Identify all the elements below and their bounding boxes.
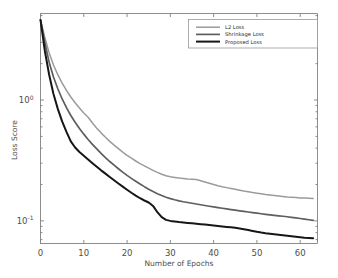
x-tick-label: 40: [208, 248, 219, 258]
chart-figure: 0102030405060 10010-1 Number of Epochs L…: [0, 0, 338, 278]
x-axis-title: Number of Epochs: [145, 259, 214, 268]
loss-curve-chart: 0102030405060 10010-1 Number of Epochs L…: [0, 0, 338, 278]
y-tick-label: 100: [19, 94, 34, 106]
series-group: [41, 20, 314, 238]
x-tick-label: 10: [78, 248, 89, 258]
x-tick-label: 60: [295, 248, 306, 258]
y-tick-label: 10-1: [17, 214, 34, 226]
y-axis-title: Loss Score: [10, 120, 19, 160]
legend-label: Shrinkage Loss: [225, 31, 264, 38]
series-line: [41, 20, 314, 238]
legend-label: L2 Loss: [225, 24, 245, 30]
x-tick-label: 20: [122, 248, 133, 258]
x-tick-label: 30: [165, 248, 176, 258]
series-line: [41, 20, 314, 220]
x-tick-label: 50: [251, 248, 262, 258]
chart-legend[interactable]: L2 LossShrinkage LossProposed Loss: [189, 20, 318, 49]
y-axis-ticks: 10010-1: [17, 16, 318, 240]
x-tick-label: 0: [38, 248, 43, 258]
legend-label: Proposed Loss: [225, 39, 262, 46]
